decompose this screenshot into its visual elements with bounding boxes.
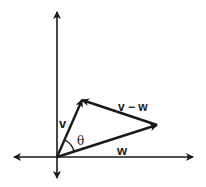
label-w: w — [116, 143, 128, 158]
vector-diagram: v w v − w θ — [0, 0, 206, 187]
angle-arc — [65, 140, 75, 152]
label-v: v — [59, 116, 67, 131]
vector-w — [57, 125, 157, 157]
axes — [14, 12, 193, 178]
label-v-minus-w: v − w — [118, 100, 148, 114]
label-theta: θ — [77, 134, 84, 148]
